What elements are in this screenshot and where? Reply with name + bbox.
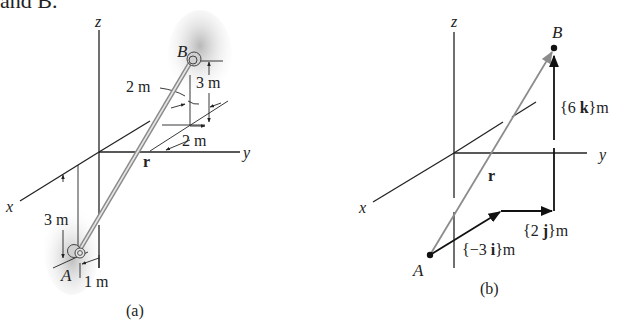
- point-b-label: B: [177, 42, 188, 61]
- dim-a-depth: 3 m: [44, 211, 69, 228]
- component-j-label: {2 j}m: [523, 222, 569, 240]
- dim-b-height: 3 m: [196, 74, 221, 91]
- point-a: [427, 252, 433, 258]
- y-axis-label: y: [597, 146, 607, 164]
- dim-arrow: [171, 104, 185, 108]
- component-i-label: {−3 i}m: [462, 241, 516, 258]
- y-axis-label: y: [241, 144, 251, 162]
- x-axis-back-dash: [512, 102, 536, 117]
- z-axis-label: z: [450, 13, 458, 30]
- figure-a: z y x: [5, 10, 251, 320]
- point-b-label: B: [552, 23, 563, 42]
- x-axis-back: [454, 122, 503, 153]
- point-b: [551, 45, 557, 51]
- caption-b: (b): [480, 280, 499, 298]
- component-k-label: {6 k}m: [560, 99, 609, 116]
- figure-b: z y x A B r {6 k}m {2 j}m {−3 i}m (b): [358, 13, 609, 298]
- bolt-b: [187, 52, 201, 66]
- x-axis-label: x: [358, 199, 366, 216]
- x-axis: [373, 153, 454, 202]
- vector-r-label: r: [143, 153, 150, 170]
- x-axis-label: x: [5, 198, 13, 215]
- diagram-canvas: z y x: [0, 0, 623, 324]
- dim-a-offset: 1 m: [84, 273, 109, 290]
- point-a-label: A: [60, 266, 72, 285]
- dim-b-offset-x: 2 m: [182, 132, 207, 149]
- vector-r-label: r: [488, 167, 495, 184]
- dim-b-offset-y: 2 m: [126, 78, 151, 95]
- x-axis: [20, 152, 99, 201]
- z-axis-label: z: [94, 13, 102, 30]
- caption-a: (a): [126, 302, 144, 320]
- point-a-label: A: [412, 261, 424, 280]
